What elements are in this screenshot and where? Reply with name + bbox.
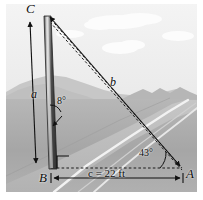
vertex-label-a: A [186, 167, 194, 180]
side-label-c: c = 22 ft [88, 168, 125, 179]
side-label-a: a [31, 88, 37, 100]
leaning-pole-figure: C B A a b c = 22 ft 8° 43° [0, 0, 203, 200]
angle-label-8deg: 8° [57, 96, 66, 106]
vertex-label-c: C [26, 2, 35, 15]
vertex-label-b: B [39, 171, 47, 184]
angle-label-43deg: 43° [139, 148, 153, 158]
side-label-b: b [110, 76, 116, 88]
